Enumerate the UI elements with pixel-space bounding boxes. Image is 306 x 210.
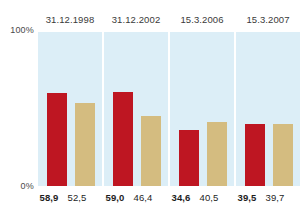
bar-red-2 (113, 92, 133, 186)
group-header-1: 31.12.1998 (38, 13, 102, 27)
bar-group-3 (170, 32, 234, 186)
value-label-tan-4: 39,7 (257, 192, 293, 204)
y-axis-tick-bottom: 0% (0, 181, 34, 191)
y-axis-tick-top: 100% (0, 25, 34, 35)
plot-panel-4 (236, 32, 300, 186)
bar-tan-3 (207, 122, 227, 186)
plot-panel-2 (104, 32, 168, 186)
bar-red-1 (47, 93, 67, 186)
bar-group-2 (104, 32, 168, 186)
plot-panel-1 (38, 32, 102, 186)
group-header-2: 31.12.2002 (104, 13, 168, 27)
value-label-tan-1: 52,5 (59, 192, 95, 204)
bar-red-4 (245, 124, 265, 186)
bar-tan-2 (141, 116, 161, 186)
bar-tan-1 (75, 103, 95, 186)
plot-panel-3 (170, 32, 234, 186)
value-label-tan-2: 46,4 (125, 192, 161, 204)
value-label-tan-3: 40,5 (191, 192, 227, 204)
group-header-4: 15.3.2007 (236, 13, 300, 27)
group-header-3: 15.3.2006 (170, 13, 234, 27)
bar-group-1 (38, 32, 102, 186)
bar-tan-4 (273, 124, 293, 186)
bar-group-4 (236, 32, 300, 186)
bar-chart: 100% 0% 31.12.1998 58,9 52,5 31.12.2002 … (0, 0, 306, 210)
bar-red-3 (179, 130, 199, 186)
